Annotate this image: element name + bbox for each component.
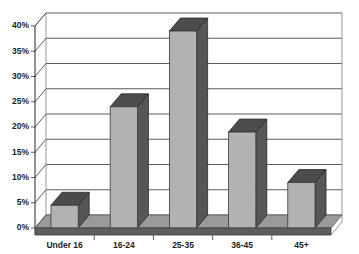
y-axis-tick-label: 0%: [17, 222, 30, 232]
bar-36-45[interactable]: [229, 119, 267, 228]
y-axis-labels: 0%5%10%15%20%25%30%35%40%: [12, 20, 29, 232]
x-axis-category-label: Under 16: [46, 240, 83, 250]
y-axis-tick-label: 20%: [12, 121, 29, 131]
x-axis-ticks: [94, 235, 272, 240]
chart-container: 0%5%10%15%20%25%30%35%40% Under 1616-242…: [0, 0, 359, 254]
y-axis-tick-label: 30%: [12, 71, 29, 81]
bar-16-24[interactable]: [110, 94, 148, 228]
bar-front-face: [169, 31, 196, 228]
bar-25-35[interactable]: [169, 18, 207, 228]
y-axis-depth-line: [35, 13, 46, 26]
x-axis-labels: Under 1616-2425-3536-4545+: [46, 240, 308, 250]
bar-front-face: [110, 107, 137, 228]
bar-front-face: [229, 132, 256, 228]
y-axis-depth-line: [35, 64, 46, 77]
bar-side-face: [256, 119, 267, 228]
y-axis-tick-label: 40%: [12, 20, 29, 30]
y-axis-tick-label: 10%: [12, 172, 29, 182]
y-axis-depth-line: [35, 165, 46, 178]
x-axis-category-label: 25-35: [172, 240, 194, 250]
x-axis-category-label: 16-24: [113, 240, 135, 250]
bar-chart: 0%5%10%15%20%25%30%35%40% Under 1616-242…: [0, 0, 359, 254]
bar-side-face: [197, 18, 208, 228]
bar-front-face: [288, 183, 315, 228]
y-axis-tick-label: 25%: [12, 96, 29, 106]
y-axis-depth-line: [35, 190, 46, 203]
y-axis-tick-label: 15%: [12, 147, 29, 157]
y-axis-ticks: [31, 13, 46, 228]
bar-45[interactable]: [288, 170, 326, 228]
x-axis-category-label: 36-45: [231, 240, 253, 250]
y-axis-depth-line: [35, 139, 46, 152]
y-axis-tick-label: 5%: [17, 197, 30, 207]
y-axis-depth-line: [35, 38, 46, 51]
bar-front-face: [51, 205, 78, 228]
y-axis-depth-line: [35, 114, 46, 127]
bar-side-face: [137, 94, 148, 228]
y-axis-depth-line: [35, 89, 46, 102]
x-axis-category-label: 45+: [294, 240, 308, 250]
y-axis-tick-label: 35%: [12, 46, 29, 56]
